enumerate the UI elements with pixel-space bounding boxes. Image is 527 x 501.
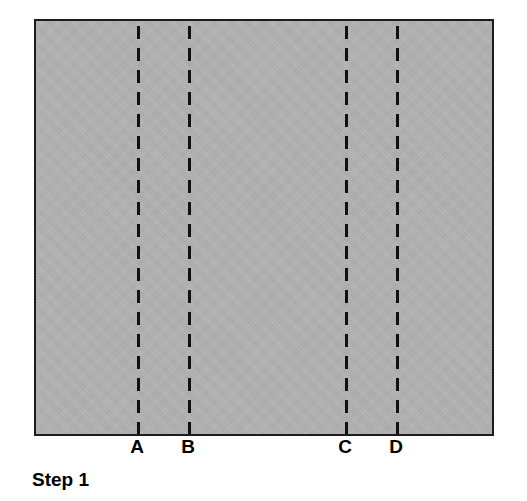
shaded-rectangle [34,19,494,436]
fold-line-label-a: A [117,437,157,457]
panel-texture [36,21,492,434]
fold-line-a [137,26,140,434]
fold-line-label-b: B [168,437,208,457]
fold-line-b [188,26,191,434]
fold-line-c [345,26,348,434]
step-caption: Step 1 [32,469,89,491]
fold-line-d [396,26,399,434]
fold-line-label-d: D [376,437,416,457]
fold-line-label-c: C [325,437,365,457]
figure-root: A B C D Step 1 [0,0,527,501]
